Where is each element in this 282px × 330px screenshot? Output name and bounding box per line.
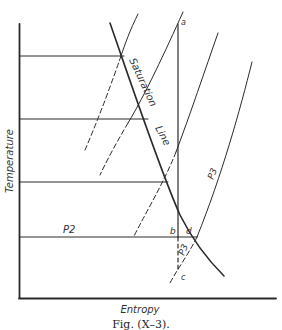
point-label-c: c <box>181 273 186 282</box>
y-axis-label: Temperature <box>4 129 15 193</box>
point-label-a: a <box>181 18 186 27</box>
x-axis-label: Entropy <box>120 304 160 315</box>
temperature-entropy-diagram: a b d c Saturation Line P2 P3 P3 Tempera… <box>0 0 282 330</box>
figure-caption: Fig. (X–3). <box>112 318 170 330</box>
p3-curve-solid <box>197 62 252 237</box>
p2-label: P2 <box>63 224 75 235</box>
p3-lower-label: P3 <box>177 242 191 256</box>
diagram-canvas: a b d c Saturation Line P2 P3 P3 Tempera… <box>0 0 282 330</box>
pressure-curve-1 <box>124 12 182 84</box>
p2-high-curve-solid <box>176 33 218 152</box>
p0-curve-dashed <box>85 56 121 150</box>
point-label-b: b <box>170 226 176 236</box>
point-label-d: d <box>186 226 192 236</box>
saturation-label: Saturation <box>127 56 159 108</box>
line-label: Line <box>153 124 172 148</box>
p2-high-curve-dashed <box>134 152 176 236</box>
pressure-curve-top <box>139 12 183 119</box>
p1-curve-dashed <box>100 123 128 175</box>
p0-curve-solid <box>121 14 138 56</box>
saturation-line <box>110 23 224 276</box>
p3-upper-label: P3 <box>206 166 220 180</box>
